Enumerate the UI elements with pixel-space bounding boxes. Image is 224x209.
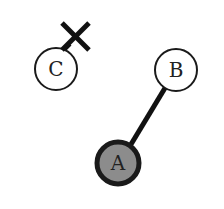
node-c: C	[35, 48, 77, 90]
cross-icon	[62, 23, 89, 50]
node-c-label: C	[48, 57, 63, 81]
node-b-label: B	[169, 58, 184, 82]
graph-diagram: C B A	[0, 0, 224, 209]
edge-a-b	[130, 88, 165, 146]
node-a-label: A	[110, 151, 126, 175]
node-a: A	[97, 142, 139, 184]
node-b: B	[155, 49, 197, 91]
